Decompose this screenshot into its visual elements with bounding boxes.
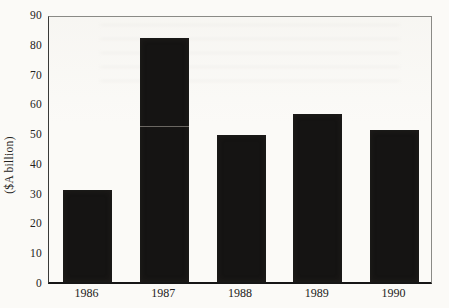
x-tick-label-1989: 1989 bbox=[305, 287, 329, 299]
x-tick-label-1987: 1987 bbox=[151, 287, 175, 299]
bar-1988 bbox=[217, 135, 266, 282]
y-tick-label-0: 0 bbox=[36, 278, 42, 290]
y-tick-label-40: 40 bbox=[30, 159, 42, 171]
x-tick-label-1990: 1990 bbox=[382, 287, 406, 299]
x-axis-tick-labels: 19861987198819891990 bbox=[48, 287, 432, 303]
bar-chart: ($A billion) 0102030405060708090 1986198… bbox=[0, 0, 449, 308]
y-axis-tick-labels: 0102030405060708090 bbox=[0, 16, 42, 284]
y-tick-label-90: 90 bbox=[30, 10, 42, 22]
bar-1986 bbox=[63, 190, 112, 282]
y-tick-label-80: 80 bbox=[30, 40, 42, 52]
bar-1987 bbox=[140, 38, 189, 282]
bar-1990 bbox=[370, 130, 419, 282]
y-tick-label-20: 20 bbox=[30, 219, 42, 231]
y-tick-label-10: 10 bbox=[30, 248, 42, 260]
y-tick-label-60: 60 bbox=[30, 100, 42, 112]
x-tick-label-1986: 1986 bbox=[74, 287, 98, 299]
plot-area bbox=[48, 16, 432, 284]
y-tick-label-30: 30 bbox=[30, 189, 42, 201]
x-tick-label-1988: 1988 bbox=[228, 287, 252, 299]
y-tick-label-50: 50 bbox=[30, 129, 42, 141]
y-tick-label-70: 70 bbox=[30, 70, 42, 82]
bar-1989 bbox=[293, 114, 342, 282]
